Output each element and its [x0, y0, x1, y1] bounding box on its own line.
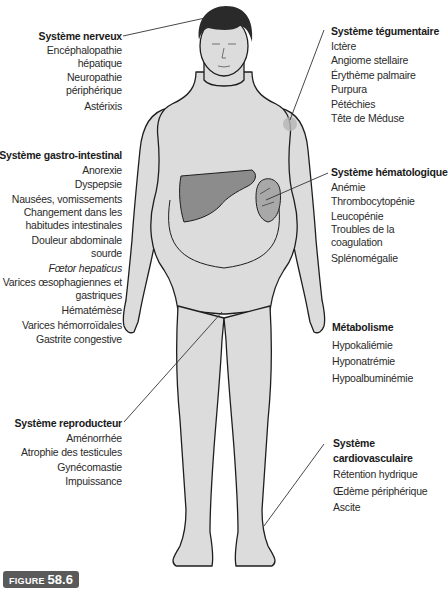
figure-label-number: 58.6 [48, 572, 73, 587]
list-item: Leucopénie [331, 209, 448, 224]
list-item: Gastrite congestive [0, 332, 122, 347]
list-item: Hématémèse [0, 303, 122, 318]
group-metabolisme: Métabolisme Hypokaliémie Hyponatrémie Hy… [332, 320, 442, 385]
group-title: Système nerveux [0, 29, 122, 44]
group-systeme-tegumentaire: Système tégumentaire Ictère Angiome stel… [331, 24, 446, 126]
group-title: Système cardiovasculaire [333, 436, 448, 465]
list-item: Œdème périphérique [333, 484, 448, 499]
group-title: Métabolisme [332, 320, 442, 335]
figure-label: FIGURE 58.6 [3, 571, 79, 588]
list-item: Anorexie [0, 163, 122, 178]
list-item: Purpura [331, 82, 446, 97]
list-item: Nausées, vomissements [0, 192, 122, 207]
figure-label-prefix: FIGURE [9, 576, 45, 586]
list-item: Neuropathie périphérique [52, 71, 122, 97]
list-item: Érythème palmaire [331, 68, 446, 83]
group-title: Système gastro-intestinal [0, 148, 122, 163]
list-item: Gynécomastie [0, 460, 122, 475]
group-title: Système hématologique [331, 165, 448, 180]
group-systeme-nerveux: Système nerveux Encéphalopathie hépatiqu… [0, 29, 122, 113]
list-item: Anémie [331, 180, 448, 195]
group-systeme-cardiovasculaire: Système cardiovasculaire Rétention hydri… [333, 436, 448, 515]
list-item: Angiome stellaire [331, 53, 446, 68]
list-item: Rétention hydrique [333, 467, 448, 482]
list-item: Hypokaliémie [332, 338, 442, 353]
list-item: Impuissance [0, 474, 122, 489]
list-item: Varices hémorroïdales [0, 318, 122, 333]
list-item: Fœtor hepaticus [0, 261, 122, 276]
list-item: Ascite [333, 500, 448, 515]
list-item: Douleur abdominale sourde [22, 234, 122, 260]
list-item: Varices œsophagiennes et gastriques [0, 276, 122, 302]
group-systeme-reproducteur: Système reproducteur Aménorrhée Atrophie… [0, 416, 122, 489]
list-item: Hypoalbuminémie [332, 371, 442, 386]
list-item: Hyponatrémie [332, 354, 442, 369]
list-item: Atrophie des testicules [0, 445, 122, 460]
list-item: Thrombocytopénie [331, 194, 448, 209]
group-title: Système reproducteur [0, 416, 122, 431]
list-item: Changement dans les habitudes intestinal… [12, 206, 122, 232]
list-item: Encéphalopathie hépatique [42, 44, 122, 70]
list-item: Astérixis [0, 99, 122, 114]
group-title: Système tégumentaire [331, 24, 446, 39]
list-item: Troubles de la coagulation [331, 223, 401, 249]
list-item: Splénomégalie [331, 251, 448, 266]
list-item: Ictère [331, 39, 446, 54]
group-systeme-hematologique: Système hématologique Anémie Thrombocyto… [331, 165, 448, 265]
spleen [256, 179, 281, 222]
list-item: Aménorrhée [0, 431, 122, 446]
list-item: Tête de Méduse [331, 111, 446, 126]
list-item: Dyspepsie [0, 177, 122, 192]
list-item: Pétéchies [331, 97, 446, 112]
group-systeme-gastro-intestinal: Système gastro-intestinal Anorexie Dyspe… [0, 148, 122, 347]
